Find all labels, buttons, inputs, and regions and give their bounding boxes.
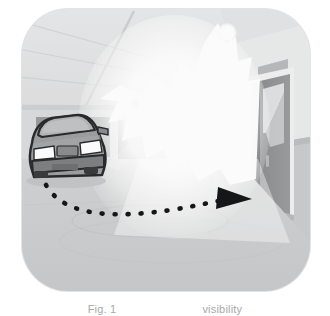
caption-left-fragment: Fig. 1 [88, 303, 117, 315]
caption-right-fragment: visibility [202, 303, 242, 315]
vignette-overlay [22, 9, 310, 291]
illustration-panel [22, 9, 310, 291]
figure-caption: Fig. 1visibility [0, 303, 330, 316]
garage-scene-illustration [22, 9, 310, 291]
